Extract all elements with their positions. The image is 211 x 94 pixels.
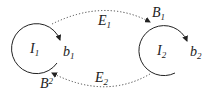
diagram-canvas: I1 b1 B2 I2 b2 B1 E1 E2	[0, 0, 211, 94]
input-label-b1: B1	[152, 5, 165, 22]
node-label-i2: I2	[156, 43, 167, 60]
node-label-i1: I1	[29, 41, 39, 58]
input-label-b2: B2	[40, 76, 54, 91]
output-label-b2: b2	[190, 44, 202, 61]
edge-label-e2: E2	[94, 70, 109, 87]
edge-label-e1: E1	[97, 13, 111, 30]
output-label-b1: b1	[63, 44, 75, 61]
